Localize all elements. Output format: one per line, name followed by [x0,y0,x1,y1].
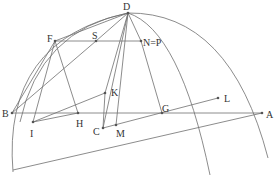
label-K: K [111,87,119,98]
segment-IK [33,93,105,122]
segment-DM [116,13,128,125]
label-D: D [123,1,130,12]
point-I [32,121,35,124]
point-M [115,124,118,127]
label-M: M [116,128,125,139]
label-L: L [224,93,230,104]
geometry-diagram: DFSN=PBAIHKCMGL [0,0,279,180]
point-K [104,92,107,95]
segment-DK [105,13,128,93]
point-C [102,127,105,130]
segment-NG [141,41,162,113]
segment-FH [55,41,78,113]
segment-FB [12,41,55,113]
label-N: N=P [143,37,162,48]
point-N [140,40,143,43]
extra-line-0 [13,113,262,170]
point-D [127,12,130,15]
segment-FI [33,41,55,122]
point-H [77,112,80,115]
point-A [261,112,264,115]
label-G: G [162,103,169,114]
point-L [217,97,220,100]
label-F: F [47,33,53,44]
label-I: I [30,128,33,139]
label-B: B [2,108,9,119]
segment-DN [128,13,141,41]
label-H: H [76,118,83,129]
point-B [11,112,14,115]
segment-IH [33,113,78,122]
point-F [54,40,57,43]
label-A: A [266,109,274,120]
label-C: C [93,126,100,137]
segment-DC [103,13,128,128]
points [11,12,264,130]
label-S: S [92,30,98,41]
